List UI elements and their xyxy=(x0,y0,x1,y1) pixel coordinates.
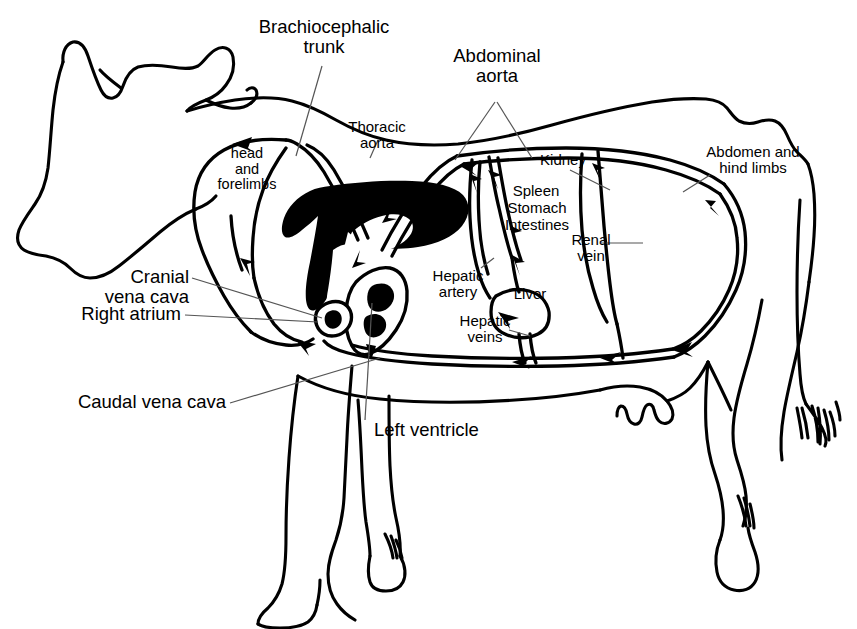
label-cranial-vena-cava: Cranial vena cava xyxy=(24,267,189,307)
cow-body-outline xyxy=(18,42,840,628)
leader-right-atrium xyxy=(185,315,318,322)
label-renal-vein: Renal vein xyxy=(554,232,628,264)
cow-throat-line xyxy=(196,196,216,209)
cow-front-leg-near-back xyxy=(328,366,355,620)
label-brachiocephalic-trunk: Brachiocephalic trunk xyxy=(254,17,394,57)
leader-lines xyxy=(185,66,710,420)
label-hepatic-veins: Hepatic veins xyxy=(444,313,526,345)
arrow-cranial-vena-cava-right xyxy=(296,340,316,356)
leader-kidney xyxy=(570,170,610,190)
cow-face-profile xyxy=(18,62,196,278)
cow-hind-leg-near xyxy=(781,282,809,460)
label-kidney: Kidney xyxy=(527,152,599,168)
cow-hind-leg-near-front xyxy=(708,362,731,410)
label-left-ventricle: Left ventricle xyxy=(374,420,564,440)
cow-right-ear-tip xyxy=(247,88,257,103)
label-liver: Liver xyxy=(502,286,558,302)
caudal-vena-cava-vessel-2 xyxy=(352,345,673,358)
cow-rump-and-tail-base xyxy=(808,164,815,282)
cow-front-leg-near-joint xyxy=(317,580,320,605)
label-abdominal-aorta: Abdominal aorta xyxy=(432,46,562,86)
cow-tail-switch xyxy=(797,402,840,446)
abdomen-hindlimbs-bed-inner xyxy=(673,194,738,349)
circulatory-diagram: Brachiocephalic trunk Abdominal aorta Th… xyxy=(0,0,857,629)
label-head-and-forelimbs: head and forelimbs xyxy=(205,146,289,193)
arrow-to-hindlimbs xyxy=(705,200,719,216)
label-caudal-vena-cava: Caudal vena cava xyxy=(12,392,226,412)
label-intestines: Intestines xyxy=(494,217,580,233)
cow-front-leg-near xyxy=(258,376,298,624)
cow-tail xyxy=(797,200,806,404)
cow-flank-line xyxy=(667,362,708,401)
label-abdomen-and-hind-limbs: Abdomen and hind limbs xyxy=(690,144,816,176)
label-spleen: Spleen xyxy=(500,183,572,199)
label-right-atrium: Right atrium xyxy=(24,304,181,324)
cow-front-leg-far xyxy=(358,400,370,556)
head-forelimbs-return xyxy=(231,216,242,270)
cow-left-ear xyxy=(100,70,121,88)
cow-belly-line xyxy=(298,376,600,402)
label-stomach: Stomach xyxy=(496,200,578,216)
cow-udder xyxy=(600,386,673,424)
cow-front-hoof-far xyxy=(369,556,405,591)
cow-hind-leg-far-back xyxy=(733,300,762,526)
label-hepatic-artery: Hepatic artery xyxy=(416,268,500,300)
label-thoracic-aorta: Thoracic aorta xyxy=(333,119,421,151)
